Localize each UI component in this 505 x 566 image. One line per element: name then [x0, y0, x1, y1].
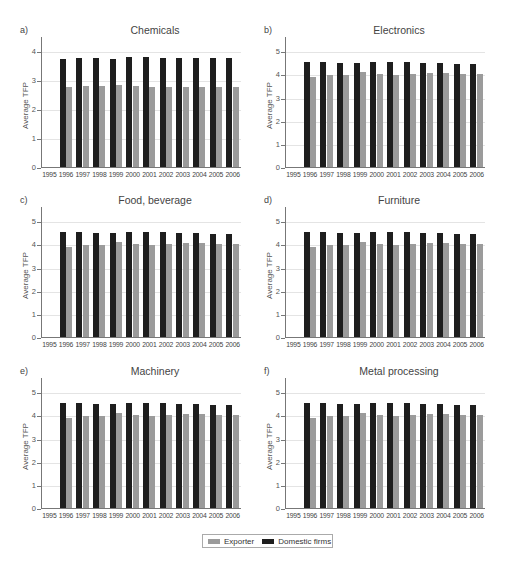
bar-exporter: [216, 415, 222, 509]
bar-exporter: [133, 86, 139, 168]
plot-area: 0123451995199619971998199920002001200220…: [285, 213, 485, 338]
y-axis: [285, 207, 286, 338]
chart-panel-5: e)MachineryAverage TFP012345199519961997…: [20, 366, 270, 536]
panel-letter: c): [20, 195, 28, 205]
chart-panel-4: d)FurnitureAverage TFP012345199519961997…: [264, 195, 505, 365]
y-tick: [37, 338, 41, 339]
bar-exporter: [377, 415, 383, 509]
y-tick-label: 3: [27, 436, 36, 444]
bar-exporter: [393, 416, 399, 509]
bar-exporter: [477, 74, 483, 168]
bar-exporter: [410, 415, 416, 509]
plot-area: 0123451995199619971998199920002001200220…: [41, 384, 241, 509]
bar-exporter: [83, 86, 89, 168]
bar-exporter: [233, 244, 239, 338]
legend: Exporter Domestic firms: [202, 534, 333, 548]
bar-exporter: [66, 247, 72, 338]
y-tick-label: 1: [27, 482, 36, 490]
bar-exporter: [149, 245, 155, 338]
exporter-swatch-icon: [208, 539, 220, 544]
y-tick-label: 1: [27, 311, 36, 319]
bar-exporter: [460, 74, 466, 168]
y-tick-label: 2: [27, 106, 36, 114]
y-tick: [37, 168, 41, 169]
y-tick: [281, 168, 285, 169]
y-tick-label: 0: [27, 505, 36, 513]
y-tick-label: 0: [27, 164, 36, 172]
y-axis: [41, 207, 42, 338]
bar-exporter: [216, 87, 222, 168]
gridline: [286, 222, 485, 223]
y-axis: [285, 37, 286, 168]
legend-item-exporter: Exporter: [208, 537, 254, 546]
gridline: [42, 222, 241, 223]
y-tick-label: 4: [27, 412, 36, 420]
bar-exporter: [133, 415, 139, 509]
x-tick-label: 2006: [223, 171, 243, 178]
bar-exporter: [66, 418, 72, 509]
legend-label-exporter: Exporter: [224, 537, 254, 546]
panel-letter: b): [264, 25, 272, 35]
y-tick-label: 1: [271, 141, 280, 149]
bar-exporter: [99, 416, 105, 509]
legend-label-domestic: Domestic firms: [278, 537, 331, 546]
bar-exporter: [99, 245, 105, 338]
gridline: [42, 393, 241, 394]
y-tick-label: 5: [271, 48, 280, 56]
y-axis-label: Average TFP: [265, 411, 274, 481]
x-tick-label: 2006: [223, 512, 243, 519]
bar-exporter: [310, 418, 316, 509]
y-tick: [281, 338, 285, 339]
bar-exporter: [460, 244, 466, 338]
y-axis-label: Average TFP: [21, 240, 30, 310]
y-tick-label: 3: [27, 77, 36, 85]
y-tick-label: 4: [27, 48, 36, 56]
x-axis: [41, 508, 241, 509]
y-axis-label: Average TFP: [265, 240, 274, 310]
y-tick-label: 2: [27, 459, 36, 467]
y-tick-label: 2: [27, 288, 36, 296]
chart-panel-6: f)Metal processingAverage TFP01234519951…: [264, 366, 505, 536]
bar-exporter: [199, 87, 205, 168]
gridline: [286, 393, 485, 394]
bar-exporter: [443, 414, 449, 509]
bar-exporter: [410, 244, 416, 338]
y-tick-label: 1: [271, 482, 280, 490]
x-tick-label: 2006: [223, 341, 243, 348]
y-tick-label: 0: [27, 334, 36, 342]
panel-title: Metal processing: [284, 365, 505, 377]
bar-exporter: [183, 87, 189, 168]
y-tick-label: 2: [271, 118, 280, 126]
bar-exporter: [233, 415, 239, 509]
bar-exporter: [83, 245, 89, 338]
x-axis: [285, 337, 485, 338]
bar-exporter: [393, 75, 399, 168]
domestic-swatch-icon: [262, 539, 274, 544]
x-tick-label: 2006: [467, 512, 487, 519]
panel-letter: e): [20, 366, 28, 376]
bar-exporter: [99, 86, 105, 168]
y-axis: [41, 37, 42, 168]
y-tick: [37, 509, 41, 510]
bar-exporter: [183, 243, 189, 338]
panel-letter: f): [264, 366, 270, 376]
y-tick-label: 2: [271, 459, 280, 467]
panel-title: Machinery: [40, 365, 270, 377]
x-tick-label: 2006: [467, 171, 487, 178]
bar-exporter: [183, 414, 189, 509]
y-axis-label: Average TFP: [21, 411, 30, 481]
y-tick-label: 4: [271, 241, 280, 249]
bar-exporter: [327, 245, 333, 338]
bar-exporter: [327, 416, 333, 509]
panel-title: Electronics: [284, 24, 505, 36]
bar-exporter: [149, 416, 155, 509]
y-tick-label: 1: [27, 135, 36, 143]
chart-panel-1: a)ChemicalsAverage TFP012341995199619971…: [20, 25, 270, 195]
y-tick-label: 0: [271, 505, 280, 513]
panel-title: Chemicals: [40, 24, 270, 36]
bar-exporter: [233, 87, 239, 168]
y-axis: [285, 378, 286, 509]
bar-exporter: [66, 87, 72, 168]
y-tick-label: 0: [271, 164, 280, 172]
bar-exporter: [460, 415, 466, 509]
